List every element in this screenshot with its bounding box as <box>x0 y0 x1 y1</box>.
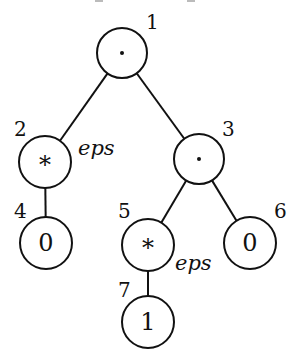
node-number-label: 1 <box>146 10 159 34</box>
node-number-label: 2 <box>14 117 27 141</box>
node-number-label: 6 <box>274 199 287 223</box>
node-number-label: 5 <box>118 199 131 223</box>
eps-annotation: eps <box>78 136 115 160</box>
tree-node-2: *2eps <box>14 117 115 188</box>
node-number-label: 4 <box>14 199 27 223</box>
leaf-value: 0 <box>38 229 53 257</box>
eps-annotation: eps <box>175 251 212 275</box>
nodes: 1*2eps304*5eps0617 <box>14 10 287 348</box>
star-operator-symbol: * <box>142 234 154 262</box>
star-operator-symbol: * <box>39 151 51 179</box>
leaf-value: 1 <box>140 308 155 336</box>
cropped-text-remnant <box>95 0 195 2</box>
node-number-label: 3 <box>222 117 235 141</box>
edge-1-2 <box>60 73 108 140</box>
edge-3-5 <box>161 181 186 223</box>
tree-node-1: 1 <box>97 10 159 78</box>
tree-node-7: 17 <box>118 278 174 348</box>
tree-node-5: *5eps <box>118 199 212 275</box>
leaf-value: 0 <box>242 229 257 257</box>
edge-3-6 <box>212 180 237 220</box>
syntax-tree-diagram: 1*2eps304*5eps0617 <box>0 0 300 360</box>
node-number-label: 7 <box>118 278 131 302</box>
edge-1-3 <box>137 73 185 139</box>
tree-node-4: 04 <box>14 199 72 269</box>
concat-dot-icon <box>120 51 124 55</box>
concat-dot-icon <box>197 157 201 161</box>
tree-node-6: 06 <box>224 199 287 269</box>
tree-node-3: 3 <box>174 117 235 184</box>
